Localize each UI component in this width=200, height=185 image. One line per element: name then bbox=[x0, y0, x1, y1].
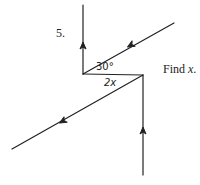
instruction-text: Find x. bbox=[163, 62, 196, 77]
angle-label-30: 30° bbox=[96, 61, 114, 72]
arrow-down-left-icon bbox=[126, 41, 135, 50]
problem-number: 5. bbox=[56, 26, 65, 41]
instruction-suffix: . bbox=[193, 62, 196, 76]
ray-diagram bbox=[0, 0, 200, 185]
angle-label-2x: 2x bbox=[104, 77, 116, 88]
horizontal-segment bbox=[83, 74, 143, 75]
bottom-diagonal-line bbox=[12, 75, 143, 149]
instruction-prefix: Find bbox=[163, 62, 188, 76]
